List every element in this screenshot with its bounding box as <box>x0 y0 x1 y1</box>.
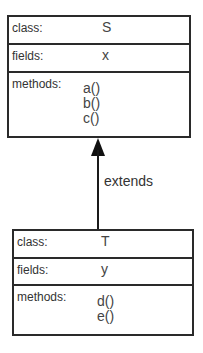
class-label: class: <box>12 21 43 35</box>
methods-list: a() b() c() <box>83 81 100 126</box>
relationship-label: extends <box>104 173 153 189</box>
methods-label: methods: <box>12 77 61 91</box>
method-item: a() <box>83 81 100 96</box>
fields-label: fields: <box>12 49 43 63</box>
class-box-t: class: T fields: y methods: d() e() <box>12 229 194 336</box>
method-item: b() <box>83 96 100 111</box>
class-name: T <box>101 234 110 249</box>
fields-label: fields: <box>17 263 48 277</box>
method-item: d() <box>97 294 114 309</box>
class-label: class: <box>17 235 48 249</box>
field-value: x <box>102 48 109 63</box>
class-row: class: T <box>14 231 192 259</box>
method-item: c() <box>83 111 100 126</box>
methods-row: methods: d() e() <box>14 286 192 334</box>
fields-row: fields: x <box>9 45 189 73</box>
fields-row: fields: y <box>14 259 192 286</box>
methods-row: methods: a() b() c() <box>9 73 189 136</box>
method-item: e() <box>97 309 114 324</box>
class-box-s: class: S fields: x methods: a() b() c() <box>7 15 191 138</box>
class-row: class: S <box>9 17 189 45</box>
methods-list: d() e() <box>97 294 114 324</box>
inheritance-arrow-line <box>97 150 99 230</box>
field-value: y <box>101 262 108 277</box>
methods-label: methods: <box>17 290 66 304</box>
class-name: S <box>102 20 111 35</box>
